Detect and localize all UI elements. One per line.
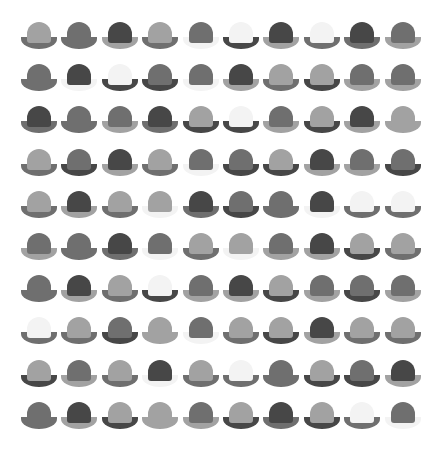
hat-icon	[101, 18, 141, 60]
hat-icon	[384, 187, 424, 229]
hat-crown	[27, 360, 51, 381]
hat-crown	[229, 402, 253, 423]
hat-icon	[222, 229, 262, 271]
hat-icon	[101, 313, 141, 355]
hat-crown	[391, 275, 415, 296]
hat-crown	[108, 275, 132, 296]
hat-icon	[20, 60, 60, 102]
hat-crown	[350, 149, 374, 170]
hat-icon	[20, 18, 60, 60]
hat-icon	[101, 145, 141, 187]
hat-crown	[350, 275, 374, 296]
hat-icon	[384, 60, 424, 102]
hat-crown	[350, 402, 374, 423]
hat-crown	[189, 275, 213, 296]
hat-icon	[141, 229, 181, 271]
hat-icon	[182, 271, 222, 313]
hat-crown	[27, 402, 51, 423]
hat-crown	[27, 275, 51, 296]
hat-crown	[189, 106, 213, 127]
hat-crown	[310, 22, 334, 43]
hat-crown	[67, 360, 91, 381]
hat-crown	[27, 64, 51, 85]
hat-icon	[262, 398, 302, 440]
hat-icon	[60, 102, 100, 144]
hat-icon	[262, 271, 302, 313]
hat-crown	[269, 191, 293, 212]
hat-icon	[60, 18, 100, 60]
hat-icon	[101, 229, 141, 271]
hat-icon	[384, 398, 424, 440]
hat-icon	[141, 145, 181, 187]
hat-icon	[303, 313, 343, 355]
hat-crown	[269, 402, 293, 423]
hat-crown	[229, 22, 253, 43]
hat-icon	[101, 187, 141, 229]
hat-icon	[141, 271, 181, 313]
hat-icon	[60, 398, 100, 440]
hat-crown	[310, 402, 334, 423]
hat-crown	[27, 106, 51, 127]
hat-crown	[27, 317, 51, 338]
hat-icon	[222, 271, 262, 313]
hat-icon	[222, 145, 262, 187]
hat-crown	[108, 360, 132, 381]
hat-icon	[182, 356, 222, 398]
hat-icon	[222, 60, 262, 102]
hat-crown	[269, 317, 293, 338]
hat-crown	[229, 149, 253, 170]
hat-crown	[229, 233, 253, 254]
hat-icon	[101, 398, 141, 440]
hat-icon	[303, 102, 343, 144]
hat-icon	[20, 356, 60, 398]
hat-crown	[350, 360, 374, 381]
hat-icon	[141, 60, 181, 102]
hat-crown	[108, 233, 132, 254]
hat-crown	[350, 233, 374, 254]
hat-crown	[310, 64, 334, 85]
hat-crown	[391, 233, 415, 254]
hat-crown	[67, 317, 91, 338]
hat-icon	[222, 187, 262, 229]
hat-crown	[269, 106, 293, 127]
hat-icon	[141, 187, 181, 229]
hat-icon	[141, 398, 181, 440]
hat-crown	[269, 275, 293, 296]
hat-crown	[189, 149, 213, 170]
hat-icon	[222, 313, 262, 355]
hat-crown	[391, 317, 415, 338]
hat-crown	[67, 191, 91, 212]
hat-icon	[182, 229, 222, 271]
hat-icon	[182, 313, 222, 355]
hat-crown	[67, 402, 91, 423]
hat-icon	[303, 145, 343, 187]
hat-crown	[108, 106, 132, 127]
hat-icon	[303, 398, 343, 440]
hat-icon	[262, 356, 302, 398]
hat-crown	[269, 149, 293, 170]
hat-crown	[350, 317, 374, 338]
hat-crown	[148, 275, 172, 296]
hat-icon	[20, 313, 60, 355]
hat-crown	[67, 64, 91, 85]
hat-crown	[27, 22, 51, 43]
hat-crown	[108, 149, 132, 170]
hat-icon	[303, 60, 343, 102]
hat-icon	[303, 356, 343, 398]
hat-crown	[67, 233, 91, 254]
hat-crown	[229, 191, 253, 212]
hat-icon	[222, 398, 262, 440]
hat-icon	[384, 313, 424, 355]
hat-icon	[303, 187, 343, 229]
hat-crown	[108, 64, 132, 85]
hat-icon	[343, 18, 383, 60]
hat-crown	[67, 22, 91, 43]
hat-crown	[310, 191, 334, 212]
hat-icon	[60, 356, 100, 398]
hat-icon	[182, 145, 222, 187]
hat-crown	[269, 360, 293, 381]
hat-crown	[148, 402, 172, 423]
hat-icon	[343, 229, 383, 271]
hat-crown	[229, 317, 253, 338]
hat-crown	[27, 149, 51, 170]
